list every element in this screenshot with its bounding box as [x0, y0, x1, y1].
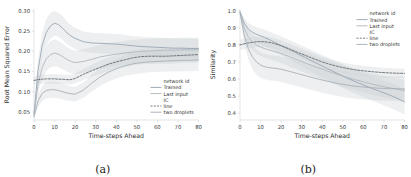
- chart-rmse: 0.050.100.150.200.250.300102030405060708…: [0, 0, 206, 150]
- legend-item-label: IC: [369, 29, 374, 35]
- legend-title: network id: [164, 78, 190, 84]
- x-tick-label: 40: [318, 124, 325, 130]
- legend-item-label: IC: [164, 97, 169, 103]
- y-tick-label: 0.30: [18, 8, 30, 14]
- plot-area-similarity: 0.40.50.60.70.80.91.001020304050607080Ti…: [206, 0, 411, 150]
- figure-two-panel: 0.050.100.150.200.250.300102030405060708…: [0, 0, 411, 177]
- x-tick-label: 40: [113, 124, 120, 130]
- x-tick-label: 50: [133, 124, 140, 130]
- y-tick-label: 0.10: [18, 89, 30, 95]
- x-tick-label: 70: [175, 124, 182, 130]
- legend-title: network id: [369, 10, 395, 16]
- x-tick-label: 60: [360, 124, 367, 130]
- y-tick-label: 0.6: [227, 76, 236, 82]
- legend-item-label: line: [369, 35, 378, 41]
- x-tick-label: 80: [401, 124, 408, 130]
- x-axis-label: Time-steps Ahead: [87, 132, 144, 140]
- x-tick-label: 60: [154, 124, 161, 130]
- x-tick-label: 70: [380, 124, 387, 130]
- chart-similarity: 0.40.50.60.70.80.91.001020304050607080Ti…: [206, 0, 411, 150]
- x-tick-label: 0: [32, 124, 36, 130]
- caption-b: (b): [206, 163, 411, 176]
- legend-item-label: Trained: [163, 84, 182, 90]
- y-tick-label: 0.9: [227, 25, 235, 31]
- y-tick-label: 0.05: [18, 109, 30, 115]
- x-tick-label: 0: [238, 124, 242, 130]
- x-tick-label: 50: [339, 124, 346, 130]
- legend-item-label: line: [164, 103, 173, 109]
- y-tick-label: 0.5: [227, 93, 235, 99]
- x-tick-label: 10: [51, 124, 58, 130]
- y-axis-label: Root Mean Squared Error: [3, 25, 11, 103]
- caption-a: (a): [0, 163, 206, 176]
- x-tick-label: 30: [298, 124, 305, 130]
- y-tick-label: 0.20: [18, 48, 30, 54]
- y-tick-label: 0.15: [18, 68, 30, 74]
- plot-area-rmse: 0.050.100.150.200.250.300102030405060708…: [0, 0, 206, 150]
- y-tick-label: 0.8: [227, 42, 236, 48]
- y-tick-label: 1.0: [227, 8, 236, 14]
- x-axis-label: Time-steps Ahead: [293, 132, 350, 140]
- legend-item-label: Trained: [368, 17, 387, 23]
- x-tick-label: 80: [195, 124, 202, 130]
- y-tick-label: 0.7: [227, 59, 235, 65]
- panel-a: 0.050.100.150.200.250.300102030405060708…: [0, 0, 206, 177]
- y-tick-label: 0.4: [227, 110, 236, 116]
- y-axis-label: Similarity: [209, 50, 217, 80]
- x-tick-label: 20: [277, 124, 284, 130]
- panel-b: 0.40.50.60.70.80.91.001020304050607080Ti…: [206, 0, 411, 177]
- y-tick-label: 0.25: [18, 28, 30, 34]
- legend-item-label: two droplets: [369, 41, 400, 48]
- x-tick-label: 20: [72, 124, 79, 130]
- x-tick-label: 30: [92, 124, 99, 130]
- x-tick-label: 10: [257, 124, 264, 130]
- legend-item-label: two droplets: [164, 109, 195, 116]
